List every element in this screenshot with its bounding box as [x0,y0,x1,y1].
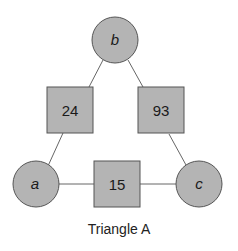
connector-24-a [48,133,63,166]
node-c-label: c [195,175,203,192]
edge-bc-value: 93 [153,102,170,119]
triangle-diagram: b a c 24 93 15 [0,0,238,251]
node-a-label: a [31,175,39,192]
diagram-caption: Triangle A [0,221,238,237]
connector-b-93 [128,60,143,87]
edge-ac-value: 15 [109,176,126,193]
connector-93-c [169,134,186,165]
connector-b-24 [89,60,103,87]
edge-ab-value: 24 [62,102,79,119]
node-b-label: b [111,31,119,48]
